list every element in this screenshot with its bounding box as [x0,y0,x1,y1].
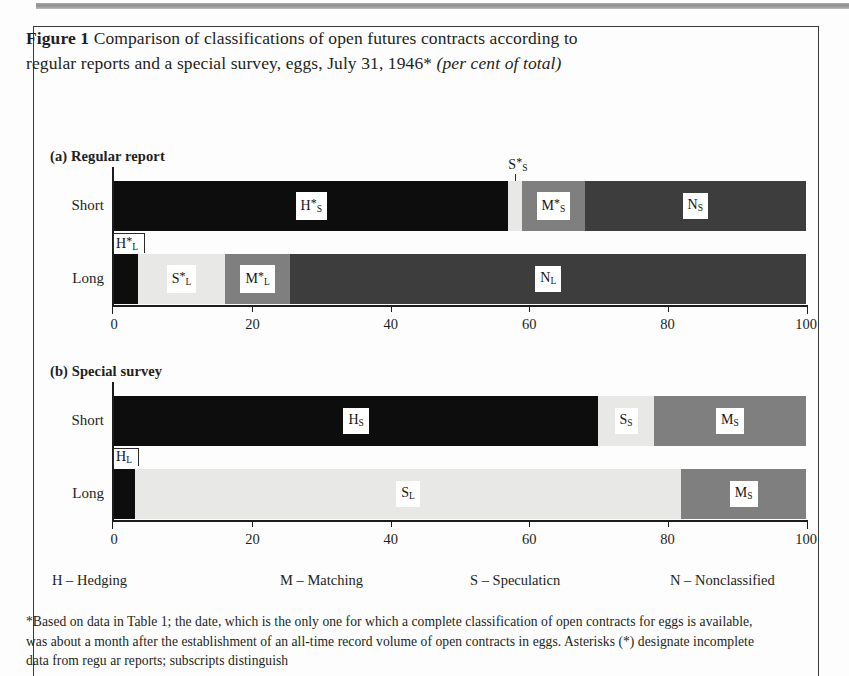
x-axis-tick-label: 40 [361,316,421,333]
x-axis-tick-label: 40 [361,531,421,548]
bar-segment-matching: M*S [522,181,584,231]
x-axis-tick-label: 80 [638,531,698,548]
row-label-short: Short [40,412,104,429]
segment-label: MS [730,481,758,508]
figure-title-line1: Comparison of classifications of open fu… [94,28,578,48]
segment-label: SL [396,481,420,508]
x-axis-tick-label: 20 [222,316,282,333]
x-axis-tick-label: 0 [84,531,144,548]
x-axis-tick [668,522,669,527]
bar-segment-hedging: HS [114,396,598,446]
x-axis-line [112,305,808,307]
bar-segment-matching: MS [681,469,806,519]
segment-callout-hedging: H*L [113,233,145,253]
x-axis-tick [252,522,253,527]
segment-label: SS [615,408,638,435]
row-label-long: Long [40,485,104,502]
segment-label: S*L [167,265,197,294]
bar-segment-speculation: SS [598,396,653,446]
panel-label-regular-report: (a) Regular report [50,148,165,165]
bar-segment-matching: MS [654,396,806,446]
segment-label: H*S [296,192,327,221]
row-label-short: Short [40,197,104,214]
segment-label: M*L [240,265,274,294]
x-axis-tick [391,522,392,527]
x-axis-tick [668,307,669,312]
row-label-long: Long [40,270,104,287]
panel-label-special-survey: (b) Special survey [50,363,162,380]
x-axis-tick-label: 100 [776,531,836,548]
bar-segment-hedging: H*S [114,181,508,231]
figure-page: Figure 1 Comparison of classifications o… [0,0,849,676]
x-axis-tick-label: 80 [638,316,698,333]
segment-label: NS [683,193,708,220]
legend-nonclassified: N – Nonclassified [670,572,775,589]
x-axis-tick-label: 100 [776,316,836,333]
figure-title-italic: (per cent of total) [437,53,562,73]
callout-leader-line [515,173,516,181]
stacked-bar-long: S*LM*LNL [114,254,806,304]
x-axis-tick [529,307,530,312]
x-axis-tick-label: 60 [499,316,559,333]
bar-segment-speculation: SL [135,469,682,519]
x-axis-tick [807,522,808,529]
bar-segment-nonclassified: NL [290,254,806,304]
legend-matching: M – Matching [280,572,363,589]
bar-segment-speculation: S*L [138,254,225,304]
footnote-line-1: *Based on data in Table 1; the date, whi… [26,614,583,629]
x-axis-tick-label: 20 [222,531,282,548]
bar-segment-hedging [114,254,138,304]
figure-title-line2: regular reports and a special survey, eg… [26,53,432,73]
x-axis-tick [112,307,113,314]
segment-callout-speculation: S*S [506,154,529,174]
segment-label: MS [716,408,744,435]
stacked-bar-short: H*SM*SNS [114,181,806,231]
bar-segment-hedging [114,469,135,519]
footnote: *Based on data in Table 1; the date, whi… [26,612,768,671]
x-axis-tick [112,522,113,529]
stacked-bar-short: HSSSMS [114,396,806,446]
x-axis-tick [807,307,808,314]
x-axis-line [112,520,808,522]
legend-hedging: H – Hedging [52,572,127,589]
segment-label: HS [343,408,368,435]
figure-number: Figure 1 [26,28,89,48]
segment-label: NL [535,266,561,293]
stacked-bar-long: SLMS [114,469,806,519]
page-title: Figure 1 Comparison of classifications o… [26,26,751,76]
segment-callout-hedging: HL [113,448,139,466]
x-axis-tick [391,307,392,312]
x-axis-tick-label: 60 [499,531,559,548]
x-axis-tick-label: 0 [84,316,144,333]
x-axis-tick [529,522,530,527]
bar-segment-nonclassified: NS [585,181,806,231]
bar-segment-speculation [508,181,522,231]
segment-label: M*S [537,192,571,221]
bar-segment-matching: M*L [225,254,291,304]
x-axis-tick [252,307,253,312]
legend-speculation: S – Speculaticn [470,572,560,589]
top-rule-decoration [36,3,849,9]
